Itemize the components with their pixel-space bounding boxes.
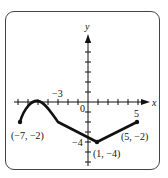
start-point-dot <box>18 120 22 124</box>
end-point-dot <box>135 120 139 124</box>
vertex-point-label: (1, −4) <box>93 148 120 160</box>
origin-label: 0 <box>80 103 85 114</box>
x-axis-arrow-icon <box>141 99 150 105</box>
tick-label-x-5: 5 <box>134 108 139 119</box>
start-point-label: (−7, −2) <box>11 130 44 142</box>
tick-label-y-neg4: −4 <box>72 137 83 148</box>
vertex-point-dot <box>95 140 99 144</box>
tick-label-x-neg3: −3 <box>52 88 63 99</box>
x-axis-label: x <box>151 97 157 108</box>
y-axis-label: y <box>84 21 90 32</box>
end-point-label: (5, −2) <box>121 131 148 143</box>
function-graph: y x 0 −3 5 −4 (−7, −2) (1, −4) (5, −2) <box>0 0 168 178</box>
y-axis <box>85 34 91 166</box>
